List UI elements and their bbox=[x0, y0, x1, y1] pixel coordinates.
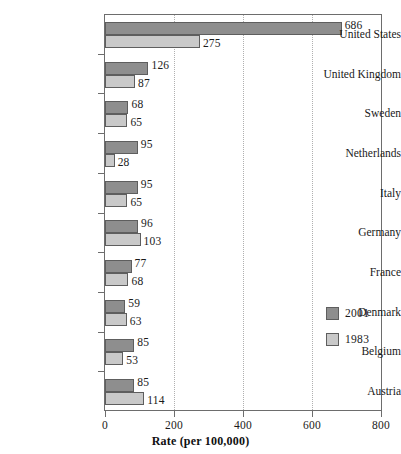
legend-label: 1983 bbox=[345, 333, 369, 346]
x-axis-tick bbox=[381, 411, 382, 417]
x-axis-tick bbox=[243, 411, 244, 417]
bar-value-label: 103 bbox=[144, 236, 162, 248]
category-label-netherlands: Netherlands bbox=[301, 147, 401, 159]
bar-chart: 6862751268768659528956596103776859638553… bbox=[0, 0, 401, 454]
bar-2001[interactable] bbox=[105, 300, 125, 313]
bar-2001[interactable] bbox=[105, 101, 128, 114]
bar-value-label: 87 bbox=[138, 78, 150, 90]
category-label-united-kingdom: United Kingdom bbox=[301, 68, 401, 80]
bar-2001[interactable] bbox=[105, 260, 132, 273]
x-axis-tick-label: 800 bbox=[361, 419, 401, 431]
legend-swatch-icon bbox=[326, 307, 339, 320]
bar-1983[interactable] bbox=[105, 75, 135, 88]
x-axis-tick bbox=[174, 411, 175, 417]
bar-value-label: 85 bbox=[137, 377, 149, 389]
y-axis-tick bbox=[98, 252, 104, 253]
x-axis-tick-label: 0 bbox=[85, 419, 125, 431]
legend-item[interactable]: 2001 bbox=[326, 305, 386, 331]
bar-1983[interactable] bbox=[105, 352, 123, 365]
bar-2001[interactable] bbox=[105, 141, 138, 154]
bar-1983[interactable] bbox=[105, 313, 127, 326]
chart-legend: 20011983 bbox=[326, 305, 386, 357]
category-label-austria: Austria bbox=[301, 385, 401, 397]
y-axis-tick bbox=[98, 133, 104, 134]
y-axis-tick bbox=[98, 173, 104, 174]
bar-1983[interactable] bbox=[105, 233, 141, 246]
bar-2001[interactable] bbox=[105, 339, 134, 352]
bar-2001[interactable] bbox=[105, 220, 138, 233]
category-label-united-states: United States bbox=[301, 28, 401, 40]
bar-value-label: 65 bbox=[130, 117, 142, 129]
bar-value-label: 275 bbox=[203, 38, 221, 50]
legend-swatch-icon bbox=[326, 333, 339, 346]
bar-value-label: 63 bbox=[130, 316, 142, 328]
y-axis-tick bbox=[98, 332, 104, 333]
y-axis-tick bbox=[98, 213, 104, 214]
category-label-sweden: Sweden bbox=[301, 107, 401, 119]
bar-value-label: 95 bbox=[141, 179, 153, 191]
y-axis-tick bbox=[98, 54, 104, 55]
bar-value-label: 65 bbox=[130, 197, 142, 209]
bar-1983[interactable] bbox=[105, 154, 115, 167]
bar-1983[interactable] bbox=[105, 114, 127, 127]
bar-value-label: 68 bbox=[131, 276, 143, 288]
bar-2001[interactable] bbox=[105, 62, 148, 75]
cropped-title-remnant bbox=[0, 0, 401, 7]
x-axis-title: Rate (per 100,000) bbox=[0, 434, 401, 449]
legend-item[interactable]: 1983 bbox=[326, 331, 386, 357]
bar-value-label: 68 bbox=[131, 99, 143, 111]
category-label-france: France bbox=[301, 266, 401, 278]
bar-value-label: 28 bbox=[118, 157, 130, 169]
bar-1983[interactable] bbox=[105, 35, 200, 48]
bar-1983[interactable] bbox=[105, 273, 128, 286]
y-axis-tick bbox=[98, 371, 104, 372]
bar-2001[interactable] bbox=[105, 181, 138, 194]
bar-2001[interactable] bbox=[105, 379, 134, 392]
bar-value-label: 114 bbox=[147, 395, 164, 407]
y-axis-tick bbox=[98, 292, 104, 293]
x-axis-tick-label: 600 bbox=[292, 419, 332, 431]
bar-value-label: 85 bbox=[137, 337, 149, 349]
bar-value-label: 53 bbox=[126, 355, 138, 367]
bar-value-label: 95 bbox=[141, 139, 153, 151]
x-axis-tick bbox=[312, 411, 313, 417]
bar-value-label: 77 bbox=[135, 258, 147, 270]
bar-value-label: 126 bbox=[151, 60, 169, 72]
category-label-italy: Italy bbox=[301, 187, 401, 199]
bar-value-label: 59 bbox=[128, 298, 140, 310]
bar-1983[interactable] bbox=[105, 392, 144, 405]
y-axis-tick bbox=[98, 93, 104, 94]
x-axis-tick bbox=[105, 411, 106, 417]
category-label-germany: Germany bbox=[301, 226, 401, 238]
legend-label: 2001 bbox=[345, 307, 369, 320]
bar-value-label: 96 bbox=[141, 218, 153, 230]
bar-1983[interactable] bbox=[105, 194, 127, 207]
x-axis-tick-label: 400 bbox=[223, 419, 263, 431]
x-axis-tick-label: 200 bbox=[154, 419, 194, 431]
